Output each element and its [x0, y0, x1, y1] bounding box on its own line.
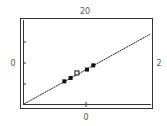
right-label: 2: [156, 59, 161, 68]
data-point: [91, 63, 95, 67]
data-point: [85, 68, 89, 72]
data-point: [69, 76, 73, 80]
chart: 20 0 2 0: [0, 0, 167, 126]
data-point-open: [75, 71, 79, 75]
left-label: 0: [10, 59, 15, 68]
plot-area: [24, 34, 150, 104]
bottom-label: 0: [83, 113, 88, 122]
top-label: 20: [80, 7, 90, 16]
data-point: [62, 79, 66, 83]
